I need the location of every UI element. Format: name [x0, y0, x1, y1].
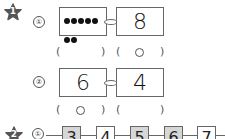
number-box: 6 [59, 68, 107, 97]
dot [64, 37, 70, 43]
answer-circle-mark[interactable] [135, 48, 144, 57]
answer-circle-mark[interactable] [76, 106, 85, 115]
sequence-box: 3 [62, 126, 81, 139]
number-box: 8 [116, 7, 164, 36]
dots-box [59, 7, 107, 36]
problem-2-star-icon: 2 [5, 126, 23, 139]
item-1-label: ① [32, 128, 44, 139]
number-value: 8 [117, 8, 163, 35]
open-paren: ( [56, 104, 60, 116]
problem-1-number: 1 [4, 6, 22, 16]
dot [78, 18, 84, 24]
sequence-box: 5 [130, 126, 149, 139]
open-paren: ( [56, 46, 60, 58]
sequence-box: 4 [96, 126, 115, 139]
problem-2-number: 2 [5, 129, 23, 139]
close-paren: ) [101, 46, 105, 58]
dot-group [64, 12, 106, 50]
sequence-box: 6 [164, 126, 183, 139]
open-paren: ( [116, 104, 120, 116]
number-value: 4 [117, 69, 163, 96]
number-value: 6 [60, 69, 106, 96]
sequence-box: 7 [197, 126, 216, 139]
dot [71, 37, 77, 43]
open-paren: ( [116, 46, 120, 58]
item-2-label: ② [33, 76, 45, 88]
dot [85, 18, 91, 24]
close-paren: ) [160, 46, 164, 58]
close-paren: ) [101, 104, 105, 116]
problem-1-star-icon: 1 [4, 3, 22, 21]
item-1-label: ① [33, 16, 45, 28]
close-paren: ) [160, 104, 164, 116]
dot [92, 18, 98, 24]
dot [64, 18, 70, 24]
number-box: 4 [116, 68, 164, 97]
dot [71, 18, 77, 24]
